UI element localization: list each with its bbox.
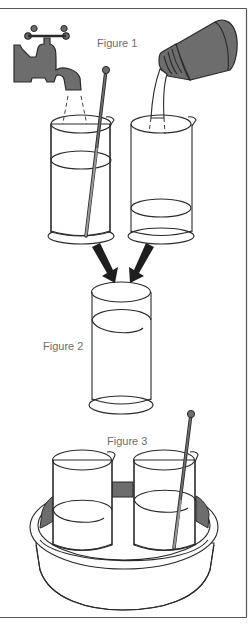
liquid-stream xyxy=(149,69,167,134)
beaker-with-stirring-rod xyxy=(48,115,114,244)
tap-icon xyxy=(14,26,81,90)
figure-2-label: Figure 2 xyxy=(43,340,83,352)
bottle-icon xyxy=(159,20,237,80)
beaker-low-liquid xyxy=(128,115,196,244)
figure-1-label: Figure 1 xyxy=(97,37,137,49)
measuring-cylinder xyxy=(89,282,153,414)
diagram-canvas xyxy=(0,0,249,644)
illustration-stage xyxy=(0,0,249,644)
arrow-right-to-cylinder xyxy=(129,243,154,283)
beaker-left xyxy=(53,450,116,551)
figure-3-label: Figure 3 xyxy=(107,435,147,447)
beaker-right-with-stirring-rod xyxy=(134,450,199,551)
arrow-left-to-cylinder xyxy=(92,243,118,283)
